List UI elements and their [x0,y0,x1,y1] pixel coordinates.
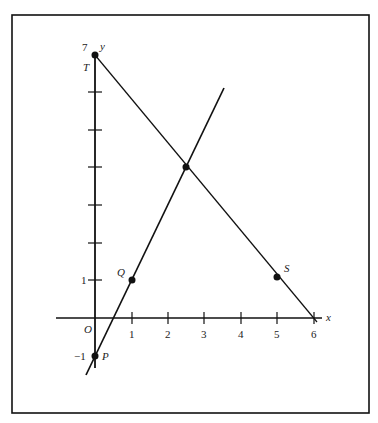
coordinate-diagram: 7 y T Q S P 1 −1 O x 1 2 3 4 5 6 [0,0,378,423]
y-tick-label-neg1: −1 [74,350,86,362]
y-tick-label-1: 1 [81,274,87,286]
x-tick-label-5: 5 [274,328,280,340]
origin-label: O [84,323,92,335]
frame-border [12,15,369,413]
point-q [129,277,136,284]
y-axis-label: y [99,40,105,52]
x-tick-label-3: 3 [201,328,207,340]
point-p [92,353,99,360]
point-label-s: S [284,262,290,274]
point-label-q: Q [117,266,125,278]
x-axis-label: x [325,311,331,323]
x-tick-label-6: 6 [311,328,317,340]
point-t [92,52,99,59]
x-tick-label-4: 4 [238,328,244,340]
x-tick-label-1: 1 [129,328,135,340]
x-tick-label-2: 2 [165,328,171,340]
point-intersection [183,164,190,171]
y-tick-label-7: 7 [82,41,88,53]
point-label-t: T [83,61,90,73]
point-s [274,274,281,281]
point-label-p: P [101,350,109,362]
line-ts [95,55,317,322]
